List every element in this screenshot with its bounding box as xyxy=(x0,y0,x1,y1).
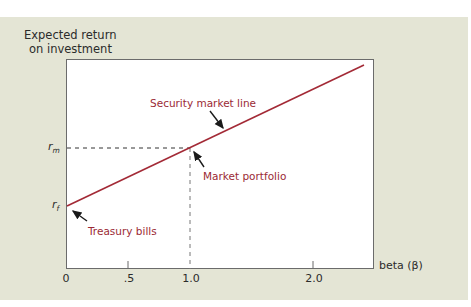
security-market-line xyxy=(67,65,364,206)
sml-arrow-icon xyxy=(210,111,223,128)
x-tick-label-0-5: .5 xyxy=(124,272,135,285)
annotation-market-portfolio: Market portfolio xyxy=(203,170,286,182)
annotation-treasury-bills: Treasury bills xyxy=(88,225,157,237)
rf-label: rf xyxy=(52,198,59,213)
x-tick-label-0: 0 xyxy=(63,272,70,285)
rm-label-sub: m xyxy=(53,146,60,155)
market-portfolio-arrow-icon xyxy=(194,152,204,167)
rm-label: rm xyxy=(48,140,60,155)
x-tick-label-2-0: 2.0 xyxy=(305,272,323,285)
annotation-security-market-line: Security market line xyxy=(150,97,256,109)
treasury-bills-arrow-icon xyxy=(73,211,87,221)
x-tick-label-1-0: 1.0 xyxy=(182,272,200,285)
rf-label-sub: f xyxy=(57,204,60,213)
x-axis-label: beta (β) xyxy=(379,259,423,272)
